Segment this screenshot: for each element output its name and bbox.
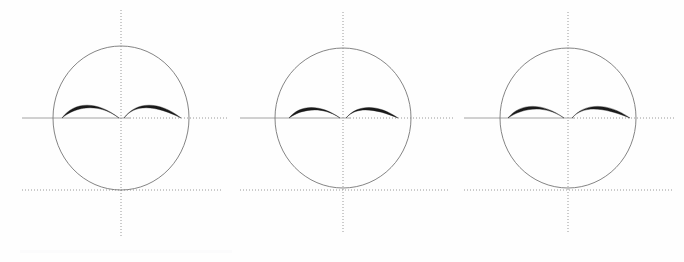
- figure-panel-2: [232, 0, 458, 262]
- right-crescent-arc-2: [346, 108, 398, 118]
- figure-panel-1: [0, 0, 232, 262]
- left-crescent-arc-3: [508, 106, 564, 118]
- left-crescent-arc-1: [62, 105, 119, 118]
- right-crescent-arc-3: [572, 106, 630, 118]
- left-crescent-arc-2: [289, 108, 340, 118]
- figure-strip: [0, 0, 684, 262]
- figure-canvas-2: [232, 0, 458, 262]
- figure-canvas-1: [0, 0, 232, 262]
- figure-panel-3: [458, 0, 684, 262]
- figure-canvas-3: [458, 0, 684, 262]
- right-crescent-arc-1: [124, 105, 181, 118]
